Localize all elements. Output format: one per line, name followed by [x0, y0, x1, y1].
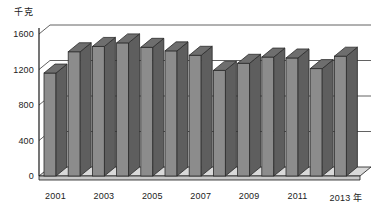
- bar-2007[interactable]: [189, 46, 212, 176]
- bar-2001[interactable]: [44, 64, 67, 176]
- bar-front-face-2012[interactable]: [310, 69, 322, 176]
- bar-side-face-2003[interactable]: [104, 37, 115, 176]
- bar-front-face-2007[interactable]: [189, 55, 201, 176]
- bar-side-face-2007[interactable]: [201, 46, 212, 176]
- bar-side-face-2002[interactable]: [80, 43, 91, 176]
- x-tick-label-2003: 2003: [93, 191, 114, 201]
- x-tick-label-2013: 2013 年: [330, 191, 363, 204]
- bar-2004[interactable]: [117, 34, 140, 176]
- bar-front-face-2013[interactable]: [334, 56, 346, 176]
- bar-front-face-2010[interactable]: [262, 57, 274, 176]
- y-tick-label-0: 0: [8, 171, 34, 181]
- x-tick-label-2001: 2001: [45, 191, 66, 201]
- bar-front-face-2001[interactable]: [44, 73, 56, 176]
- bar-2013[interactable]: [334, 47, 357, 176]
- x-tick-label-2009: 2009: [239, 191, 260, 201]
- bar-2005[interactable]: [141, 38, 164, 176]
- bar-front-face-2011[interactable]: [286, 58, 298, 176]
- bar-side-face-2012[interactable]: [322, 60, 333, 176]
- bar-front-face-2009[interactable]: [238, 63, 250, 176]
- bar-front-face-2006[interactable]: [165, 51, 177, 176]
- chart-plot-area: [0, 0, 379, 221]
- bar-2003[interactable]: [92, 37, 115, 176]
- bar-2002[interactable]: [68, 43, 91, 176]
- bar-side-face-2010[interactable]: [274, 48, 285, 176]
- bar-2009[interactable]: [238, 54, 261, 176]
- chart-floor-front: [39, 176, 360, 180]
- bar-2012[interactable]: [310, 60, 333, 176]
- bar-side-face-2009[interactable]: [250, 54, 261, 176]
- y-tick-label-800: 800: [8, 100, 34, 110]
- y-tick-label-400: 400: [8, 136, 34, 146]
- bar-2006[interactable]: [165, 42, 188, 176]
- x-tick-label-2007: 2007: [190, 191, 211, 201]
- bar-front-face-2002[interactable]: [68, 52, 80, 176]
- bar-2011[interactable]: [286, 49, 309, 176]
- bar-front-face-2004[interactable]: [117, 43, 129, 176]
- y-tick-label-1200: 1200: [8, 65, 34, 75]
- bar-front-face-2008[interactable]: [213, 70, 225, 176]
- bar-chart: 千克 040080012001600 200120032005200720092…: [0, 0, 379, 221]
- bar-side-face-2013[interactable]: [346, 47, 357, 176]
- x-tick-label-2011: 2011: [287, 191, 307, 201]
- bar-side-face-2008[interactable]: [225, 61, 236, 176]
- bar-side-face-2011[interactable]: [298, 49, 309, 176]
- bar-side-face-2006[interactable]: [177, 42, 188, 176]
- y-tick-label-1600: 1600: [8, 29, 34, 39]
- bar-side-face-2004[interactable]: [129, 34, 140, 176]
- bar-2010[interactable]: [262, 48, 285, 176]
- bar-series: [44, 34, 357, 176]
- x-tick-label-2005: 2005: [142, 191, 163, 201]
- y-axis-tick-labels: 040080012001600: [6, 0, 34, 221]
- gridline-depth-tick-1600: [39, 25, 50, 34]
- bar-side-face-2001[interactable]: [56, 64, 67, 176]
- gridline-depth-tick-1200: [39, 61, 50, 70]
- bar-front-face-2005[interactable]: [141, 47, 153, 176]
- bar-2008[interactable]: [213, 61, 236, 176]
- bar-front-face-2003[interactable]: [92, 46, 104, 176]
- bar-side-face-2005[interactable]: [153, 38, 164, 176]
